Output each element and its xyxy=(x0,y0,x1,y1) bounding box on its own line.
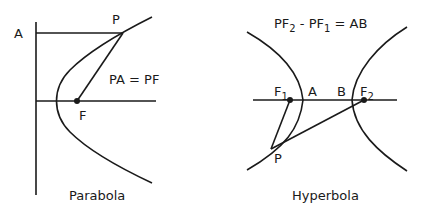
hyperbola-equation: PF2 - PF1 = AB xyxy=(274,16,367,34)
segment-pf xyxy=(77,33,123,101)
segment-pf1 xyxy=(271,100,290,149)
parabola-caption: Parabola xyxy=(69,188,125,203)
label-a: A xyxy=(14,26,23,41)
label-p: P xyxy=(274,151,282,166)
conic-sections-diagram: A P F PA = PF Parabola PF2 - PF1 = AB F1… xyxy=(0,0,422,215)
label-a: A xyxy=(308,84,317,99)
label-f: F xyxy=(79,108,86,123)
hyperbola-caption: Hyperbola xyxy=(292,188,359,203)
label-p: P xyxy=(112,12,120,27)
label-b: B xyxy=(337,84,346,99)
parabola-figure: A P F PA = PF Parabola xyxy=(14,12,159,203)
hyperbola-left-branch xyxy=(247,32,303,170)
focus-point xyxy=(74,98,80,104)
segment-pf2 xyxy=(271,100,364,149)
parabola-equation: PA = PF xyxy=(109,72,159,87)
focus-f1-point xyxy=(287,97,293,103)
hyperbola-figure: PF2 - PF1 = AB F1 A B F2 P Hyperbola xyxy=(247,16,407,203)
hyperbola-right-branch xyxy=(352,27,407,171)
parabola-curve xyxy=(57,17,153,183)
